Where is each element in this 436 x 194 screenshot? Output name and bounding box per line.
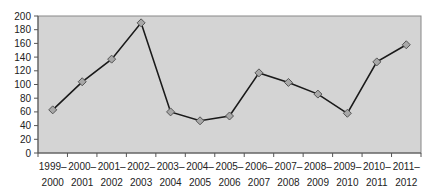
x-tick-label: 2011 <box>366 177 388 188</box>
y-tick-label: 160 <box>14 38 31 49</box>
x-axis: 1999–20002000–20012001–20022002–20032003… <box>38 153 421 188</box>
y-tick-label: 180 <box>14 24 31 35</box>
x-tick-label: 2009 <box>307 177 330 188</box>
x-tick-label: 2009– <box>333 161 361 172</box>
x-tick-label: 1999– <box>39 161 67 172</box>
x-tick-label: 2004 <box>159 177 182 188</box>
x-tick-label: 2001– <box>98 161 126 172</box>
x-tick-label: 2010 <box>336 177 359 188</box>
line-chart: 020406080100120140160180200 1999–2000200… <box>0 0 436 194</box>
x-tick-label: 2000 <box>42 177 65 188</box>
x-tick-label: 2002– <box>127 161 155 172</box>
y-tick-label: 200 <box>14 11 31 22</box>
y-tick-label: 0 <box>25 148 31 159</box>
x-tick-label: 2008 <box>277 177 300 188</box>
x-tick-label: 2005– <box>216 161 244 172</box>
x-tick-label: 2005 <box>189 177 212 188</box>
y-tick-label: 80 <box>20 93 32 104</box>
x-tick-label: 2006– <box>245 161 273 172</box>
y-tick-label: 100 <box>14 79 31 90</box>
x-tick-label: 2003 <box>130 177 153 188</box>
x-tick-label: 2011– <box>393 161 421 172</box>
y-tick-label: 120 <box>14 65 31 76</box>
y-axis: 020406080100120140160180200 <box>14 11 38 159</box>
x-tick-label: 2007 <box>248 177 271 188</box>
y-tick-label: 20 <box>20 134 32 145</box>
x-tick-label: 2008– <box>304 161 332 172</box>
x-tick-label: 2006 <box>218 177 241 188</box>
x-tick-label: 2004– <box>186 161 214 172</box>
x-tick-label: 2010– <box>363 161 391 172</box>
y-tick-label: 140 <box>14 52 31 63</box>
x-tick-label: 2007– <box>275 161 303 172</box>
x-tick-label: 2003– <box>157 161 185 172</box>
y-tick-label: 40 <box>20 120 32 131</box>
x-tick-label: 2012 <box>395 177 418 188</box>
x-tick-label: 2001 <box>71 177 94 188</box>
y-tick-label: 60 <box>20 106 32 117</box>
x-tick-label: 2002 <box>101 177 124 188</box>
x-tick-label: 2000– <box>68 161 96 172</box>
